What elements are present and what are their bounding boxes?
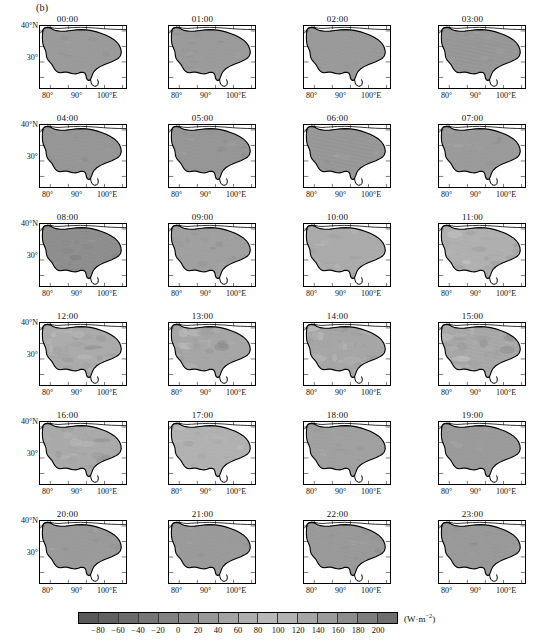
x-axis-tick-label: 100°E: [496, 91, 516, 100]
map-plot-box: [168, 25, 256, 89]
x-axis-tick-label: 90°: [200, 91, 211, 100]
colorbar-segment: [139, 613, 159, 623]
map-panel-title: 10:00: [270, 212, 405, 222]
map-panel-2100: 21:0080°90°100°E: [135, 509, 270, 608]
map-grid-row: 20:0040°N30°80°90°100°E21:0080°90°100°E2…: [0, 509, 540, 608]
colorbar-tick-label: 160: [332, 625, 345, 635]
map-plot-box: 40°N30°: [39, 124, 127, 188]
x-axis-tick-label: 100°E: [226, 388, 246, 397]
x-axis-tick-labels: 80°90°100°E: [438, 586, 538, 598]
x-axis-tick-labels: 80°90°100°E: [168, 487, 268, 499]
map-plot: [169, 224, 255, 286]
map-plot: [304, 26, 390, 88]
map-panel-1600: 16:0040°N30°80°90°100°E: [0, 410, 135, 509]
map-panel-title: 23:00: [405, 509, 540, 519]
colorbar-segment: [219, 613, 239, 623]
map-plot-box: 40°N30°: [39, 25, 127, 89]
colorbar-segment: [179, 613, 199, 623]
panel-label: (b): [36, 2, 48, 13]
x-axis-tick-label: 100°E: [97, 91, 117, 100]
x-axis-tick-label: 80°: [42, 487, 53, 496]
x-axis-tick-labels: 80°90°100°E: [303, 91, 403, 103]
x-axis-tick-label: 100°E: [496, 487, 516, 496]
map-plot: [169, 125, 255, 187]
y-axis-tick-label: 30°: [27, 152, 38, 161]
map-panel-0500: 05:0080°90°100°E: [135, 113, 270, 212]
x-axis-tick-label: 100°E: [361, 586, 381, 595]
x-axis-tick-labels: 80°90°100°E: [303, 487, 403, 499]
x-axis-tick-label: 90°: [200, 487, 211, 496]
map-plot-box: 40°N30°: [39, 421, 127, 485]
map-plot-box: [438, 322, 526, 386]
map-plot: [439, 422, 525, 484]
x-axis-tick-label: 80°: [42, 91, 53, 100]
map-plot-box: [303, 124, 391, 188]
x-axis-tick-label: 100°E: [361, 388, 381, 397]
x-axis-tick-labels: 80°90°100°E: [168, 586, 268, 598]
colorbar-segment: [338, 613, 358, 623]
colorbar-tick-label: 60: [234, 625, 243, 635]
x-axis-tick-label: 80°: [441, 586, 452, 595]
map-panel-title: 02:00: [270, 14, 405, 24]
x-axis-tick-labels: 80°90°100°E: [168, 190, 268, 202]
x-axis-tick-label: 80°: [306, 190, 317, 199]
x-axis-tick-labels: 80°90°100°E: [438, 91, 538, 103]
map-panel-1500: 15:0080°90°100°E: [405, 311, 540, 410]
x-axis-tick-label: 100°E: [361, 190, 381, 199]
colorbar-segment: [239, 613, 259, 623]
colorbar-tick-label: −60: [111, 625, 124, 635]
map-grid-row: 16:0040°N30°80°90°100°E17:0080°90°100°E1…: [0, 410, 540, 509]
x-axis-tick-label: 80°: [441, 487, 452, 496]
x-axis-tick-label: 90°: [335, 190, 346, 199]
x-axis-tick-label: 90°: [470, 487, 481, 496]
x-axis-tick-label: 90°: [335, 91, 346, 100]
map-panel-0300: 03:0080°90°100°E: [405, 14, 540, 113]
x-axis-tick-labels: 80°90°100°E: [39, 190, 139, 202]
colorbar-tick-label: 80: [254, 625, 263, 635]
x-axis-tick-label: 80°: [306, 289, 317, 298]
x-axis-tick-label: 80°: [306, 487, 317, 496]
x-axis-tick-label: 90°: [71, 289, 82, 298]
map-grid-row: 00:0040°N30°80°90°100°E01:0080°90°100°E0…: [0, 14, 540, 113]
x-axis-tick-label: 100°E: [496, 190, 516, 199]
map-panel-0100: 01:0080°90°100°E: [135, 14, 270, 113]
x-axis-tick-label: 100°E: [97, 586, 117, 595]
x-axis-tick-label: 80°: [171, 91, 182, 100]
x-axis-tick-label: 80°: [306, 388, 317, 397]
x-axis-tick-label: 90°: [200, 289, 211, 298]
map-plot-box: [303, 223, 391, 287]
x-axis-tick-labels: 80°90°100°E: [303, 289, 403, 301]
x-axis-tick-label: 100°E: [226, 487, 246, 496]
map-plot: [169, 422, 255, 484]
colorbar-segment: [278, 613, 298, 623]
x-axis-tick-label: 100°E: [97, 388, 117, 397]
x-axis-tick-labels: 80°90°100°E: [39, 487, 139, 499]
map-panel-title: 05:00: [135, 113, 270, 123]
colorbar-tick-label: −80: [91, 625, 104, 635]
colorbar-tick-label: 140: [312, 625, 325, 635]
x-axis-tick-label: 100°E: [97, 487, 117, 496]
x-axis-tick-label: 80°: [306, 91, 317, 100]
x-axis-tick-label: 100°E: [496, 289, 516, 298]
x-axis-tick-label: 90°: [200, 388, 211, 397]
map-panel-title: 15:00: [405, 311, 540, 321]
map-plot-box: 40°N30°: [39, 520, 127, 584]
colorbar-segment: [159, 613, 179, 623]
colorbar-segment: [199, 613, 219, 623]
map-plot: [439, 521, 525, 583]
x-axis-tick-label: 80°: [171, 487, 182, 496]
x-axis-tick-label: 100°E: [97, 190, 117, 199]
x-axis-tick-labels: 80°90°100°E: [39, 91, 139, 103]
x-axis-tick-labels: 80°90°100°E: [303, 190, 403, 202]
colorbar-tick-label: 40: [214, 625, 223, 635]
x-axis-tick-label: 80°: [441, 190, 452, 199]
map-plot-box: [438, 223, 526, 287]
map-plot-box: [168, 322, 256, 386]
x-axis-tick-label: 90°: [71, 586, 82, 595]
figure-panel-b: (b) 00:0040°N30°80°90°100°E01:0080°90°10…: [0, 0, 540, 641]
x-axis-tick-label: 80°: [171, 586, 182, 595]
map-plot: [169, 323, 255, 385]
y-axis-tick-label: 40°N: [21, 21, 38, 30]
y-axis-tick-label: 30°: [27, 251, 38, 260]
map-plot-box: [303, 421, 391, 485]
